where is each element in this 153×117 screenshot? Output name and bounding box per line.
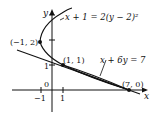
parabola-label-leader	[60, 18, 64, 20]
diagram-canvas: y x 0 −1 1 1 x + 1 = 2(y − 2)² x + 6y = …	[0, 0, 153, 117]
point-minus1-2	[38, 40, 42, 44]
x-axis-label: x	[144, 91, 149, 101]
point-label-minus1-2: (−1, 2)	[10, 38, 38, 47]
x-tick-label-1: 1	[60, 94, 65, 103]
parabola-equation-label: x + 1 = 2(y − 2)²	[65, 12, 139, 22]
origin-label: 0	[44, 80, 49, 89]
y-tick-label-1: 1	[44, 62, 49, 71]
y-axis-arrow-icon	[50, 9, 55, 15]
x-tick-label-minus1: −1	[34, 94, 46, 103]
y-axis-label: y	[42, 8, 49, 18]
point-label-7-0: (7, 0)	[122, 80, 144, 89]
point-label-1-1: (1, 1)	[63, 56, 85, 65]
line-equation-label: x + 6y = 7	[100, 55, 146, 65]
